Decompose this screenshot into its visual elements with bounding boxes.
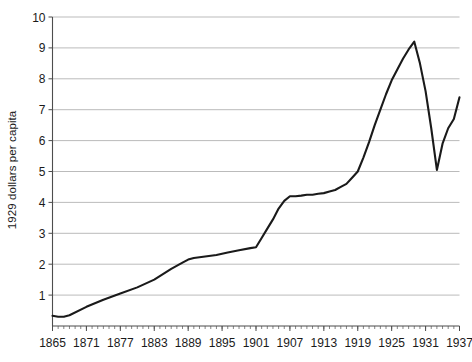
x-tick-label: 1931 (412, 336, 439, 350)
y-tick-label: 3 (39, 227, 46, 241)
y-tick-labels-group: 12345678910 (32, 11, 52, 303)
y-tick-label: 4 (39, 196, 46, 210)
data-series-line (53, 42, 460, 317)
x-tick-label: 1925 (378, 336, 405, 350)
x-tick-label: 1937 (446, 336, 472, 350)
x-tick-label: 1889 (175, 336, 202, 350)
y-tick-label: 8 (39, 72, 46, 86)
y-tick-label: 10 (32, 11, 46, 25)
y-tick-label: 7 (39, 103, 46, 117)
x-tick-label: 1877 (107, 336, 134, 350)
line-chart-plot: 12345678910 1865187118771883188918951901… (0, 0, 472, 362)
x-tick-label: 1907 (277, 336, 304, 350)
x-tick-label: 1901 (243, 336, 270, 350)
x-tick-label: 1895 (209, 336, 236, 350)
chart-container: 1929 dollars per capita 12345678910 1865… (0, 0, 472, 362)
y-tick-label: 5 (39, 165, 46, 179)
gridlines-group (53, 17, 460, 295)
y-tick-label: 1 (39, 289, 46, 303)
x-major-ticks-group (53, 326, 460, 331)
x-tick-label: 1919 (344, 336, 371, 350)
y-tick-label: 6 (39, 134, 46, 148)
x-tick-label: 1913 (310, 336, 337, 350)
y-tick-label: 9 (39, 41, 46, 55)
x-tick-label: 1865 (39, 336, 66, 350)
y-tick-label: 2 (39, 258, 46, 272)
x-tick-label: 1883 (141, 336, 168, 350)
x-tick-labels-group: 1865187118771883188918951901190719131919… (39, 336, 472, 350)
x-tick-label: 1871 (73, 336, 100, 350)
